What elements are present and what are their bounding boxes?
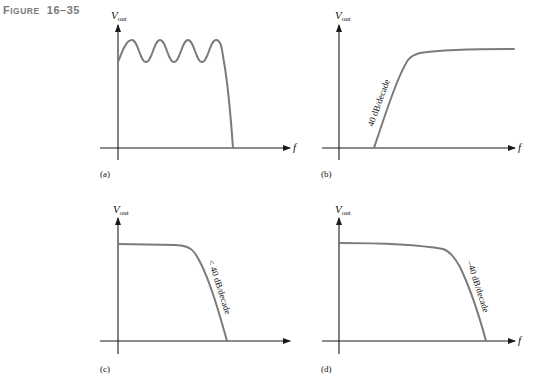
panel-label: (b) [321, 169, 332, 179]
panel-label: (d) [321, 364, 332, 374]
panel-label: (c) [100, 364, 110, 374]
panel-a: Vout f (a) [100, 9, 298, 179]
response-curve [118, 244, 227, 341]
y-axis-label: Vout [113, 203, 129, 217]
panel-b: Vout f 40 dB/decade (b) [321, 9, 523, 179]
y-axis-label: Vout [111, 9, 127, 23]
response-curve [374, 49, 514, 148]
x-axis-label: f [293, 141, 298, 153]
x-axis-label: f [518, 334, 523, 346]
x-axis-label: f [518, 141, 523, 153]
response-curve [118, 40, 233, 148]
panel-c: Vout < 40 dB/decade (c) [100, 203, 290, 374]
filter-response-figure: Vout f (a) Vout f 40 dB/decade (b) Vout … [0, 0, 540, 387]
y-axis-label: Vout [335, 203, 351, 217]
slope-annotation: 40 dB/decade [365, 78, 391, 128]
response-curve [339, 243, 486, 341]
panel-label: (a) [100, 169, 110, 179]
panel-d: Vout f –40 dB/decade (d) [321, 203, 523, 374]
y-axis-label: Vout [335, 9, 351, 23]
